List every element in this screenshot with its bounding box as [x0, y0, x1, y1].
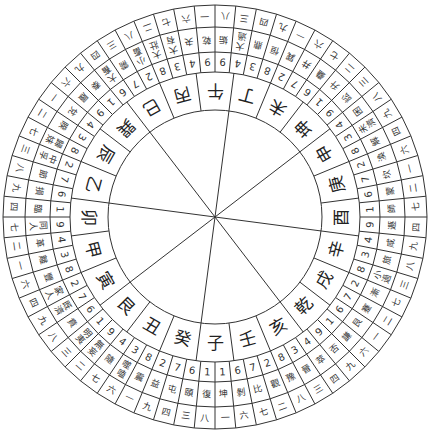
hexagram-number: 1	[204, 366, 211, 377]
hexagram-cell: 8豫八	[276, 351, 307, 405]
hexagram-number: 3	[76, 132, 89, 143]
spoke-line	[150, 132, 215, 217]
hexagram-number: 8	[63, 264, 76, 274]
hexagram-number: 9	[219, 57, 226, 68]
hexagram-number: 3	[342, 132, 355, 143]
hexagram-name: 節	[37, 168, 50, 179]
hexagram-number: 8	[349, 145, 362, 155]
hexagram-cell: 9遯四	[364, 221, 421, 232]
hexagram-name: 晉	[300, 363, 313, 376]
hexagram-cell: 4革二	[11, 236, 68, 252]
mountain-label: 乾	[291, 293, 317, 319]
hexagram-name-char: 過	[237, 31, 247, 42]
hexagram-cell: 1師七	[364, 202, 421, 213]
mountain-divider	[321, 231, 359, 236]
hexagram-period: 六	[20, 278, 33, 290]
hexagram-period: 六	[180, 13, 191, 25]
hexagram-period: 二	[141, 22, 153, 34]
hexagram-period: 四	[258, 16, 269, 28]
hexagram-cell: 4夬六	[180, 13, 196, 70]
hexagram-period: 一	[200, 11, 209, 21]
spoke-line	[215, 111, 229, 217]
hexagram-period: 九	[11, 182, 22, 192]
hexagram-period: 二	[343, 61, 356, 74]
hexagram-name: 睽	[56, 119, 70, 132]
hexagram-number: 6	[56, 190, 68, 198]
hexagram-number: 8	[276, 351, 286, 364]
hexagram-number: 3	[130, 344, 141, 357]
hexagram-period: 七	[9, 222, 19, 231]
hexagram-number: 1	[94, 315, 106, 327]
hexagram-number: 9	[55, 221, 66, 228]
hexagram-number: 6	[362, 190, 374, 198]
hexagram-name: 萃	[314, 353, 327, 366]
hexagram-cell: 2漸七	[349, 278, 403, 309]
hexagram-cell: 2小畜八	[123, 29, 154, 83]
hexagram-name: 需	[117, 58, 130, 71]
hexagram-period: 四	[411, 222, 421, 231]
hexagram-period: 七	[328, 49, 341, 62]
hexagram-period: 一	[47, 91, 60, 104]
hexagram-period: 六	[397, 143, 410, 155]
hexagram-name: 旅	[380, 254, 393, 265]
mountain-label: 子	[207, 333, 224, 353]
hexagram-number: 9	[94, 107, 106, 119]
mountain-label: 甲	[81, 239, 105, 261]
hexagram-period: 八	[295, 392, 307, 405]
hexagram-name: 遯	[387, 221, 397, 230]
hexagram-name: 井	[299, 58, 312, 72]
hexagram-period: 二	[408, 182, 419, 192]
hexagram-name: 比	[252, 382, 263, 395]
hexagram-name: 豐	[42, 271, 54, 283]
mountain-label: 艮	[113, 293, 139, 319]
hexagram-period: 六	[239, 409, 250, 421]
hexagram-name: 解	[368, 135, 382, 148]
hexagram-cell: 6蒙二	[362, 182, 419, 198]
hexagram-number: 2	[63, 160, 76, 170]
hexagram-cell: 9同人七	[9, 221, 66, 232]
hexagram-period: 三	[59, 345, 72, 358]
mountain-label: 午	[207, 81, 224, 101]
hexagram-period: 七	[411, 202, 421, 211]
hexagram-cell: 1坤一	[219, 366, 230, 423]
hexagram-period: 三	[105, 38, 118, 51]
hexagram-number: 4	[301, 335, 313, 348]
hexagram-period: 三	[20, 143, 32, 155]
mountain-label: 戌	[311, 268, 337, 293]
hexagram-period: 四	[390, 125, 403, 137]
hexagram-number: 8	[143, 351, 153, 364]
hexagram-period: 二	[11, 241, 22, 251]
hexagram-number: 2	[143, 71, 153, 84]
hexagram-name: 姤	[219, 34, 229, 45]
hexagram-number: 7	[173, 361, 182, 373]
hexagram-number: 6	[301, 86, 313, 99]
hexagram-number: 4	[117, 335, 129, 348]
mountain-label: 寅	[93, 268, 119, 293]
hexagram-number: 1	[219, 366, 226, 377]
hexagram-cell: 3旅八	[359, 250, 416, 271]
hexagram-name: 夬	[184, 36, 195, 48]
hexagram-number: 7	[59, 175, 71, 184]
hexagram-period: 三	[398, 279, 410, 291]
hexagram-number: 9	[204, 57, 211, 68]
hexagram-cell: 6剝六	[234, 364, 250, 421]
hexagram-number: 2	[276, 71, 286, 84]
mountain-label: 坤	[291, 115, 317, 141]
hexagram-number: 8	[158, 65, 168, 78]
hexagram-number: 7	[76, 291, 89, 302]
hexagram-period: 四	[328, 372, 341, 385]
hexagram-number: 3	[59, 250, 71, 259]
hexagram-period: 八	[404, 260, 416, 271]
hexagram-number: 1	[55, 206, 66, 213]
hexagram-number: 1	[313, 96, 325, 108]
mountain-divider	[71, 198, 109, 203]
mountain-label: 巳	[140, 95, 165, 121]
hexagram-period: 八	[123, 29, 135, 42]
hexagram-number: 4	[333, 119, 346, 131]
hexagram-name: 咸	[384, 238, 396, 249]
hexagram-number: 4	[234, 58, 242, 70]
hexagram-number: 2	[349, 278, 362, 288]
mountain-label: 辰	[93, 142, 119, 167]
hexagram-name: 升	[328, 79, 341, 92]
hexagram-period: 二	[381, 314, 394, 327]
